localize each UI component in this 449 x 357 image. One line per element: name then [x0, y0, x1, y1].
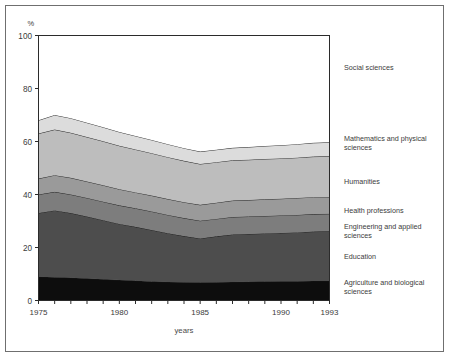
legend-item-health-professions: Health professions: [344, 206, 448, 215]
x-tick-label: 1975: [30, 308, 48, 317]
legend-item-social-sciences: Social sciences: [344, 63, 448, 72]
chart-figure: 020406080100%19751980198519901993years S…: [0, 0, 449, 357]
x-tick-label: 1985: [191, 308, 209, 317]
y-tick-label: 0: [27, 297, 32, 306]
y-tick-label: 40: [23, 191, 33, 200]
x-axis-label: years: [174, 326, 193, 335]
y-tick-label: 80: [23, 85, 33, 94]
y-axis: 020406080100: [18, 32, 38, 306]
legend-item-education: Education: [344, 252, 448, 261]
y-tick-label: 100: [18, 32, 32, 41]
x-tick-label: 1990: [272, 308, 290, 317]
x-tick-label: 1993: [321, 308, 339, 317]
y-tick-label: 20: [23, 244, 33, 253]
x-axis: 19751980198519901993: [30, 301, 339, 318]
x-tick-label: 1980: [110, 308, 128, 317]
y-axis-unit: %: [28, 19, 35, 28]
y-tick-label: 60: [23, 138, 33, 147]
legend-item-humanities: Humanities: [344, 177, 448, 186]
legend-item-engineering-and-applied-sciences: Engineering and applied sciences: [344, 222, 448, 240]
legend-item-mathematics-and-physical-sciences: Mathematics and physical sciences: [344, 134, 448, 152]
legend-item-agriculture-and-biological-sciences: Agriculture and biological sciences: [344, 278, 448, 296]
